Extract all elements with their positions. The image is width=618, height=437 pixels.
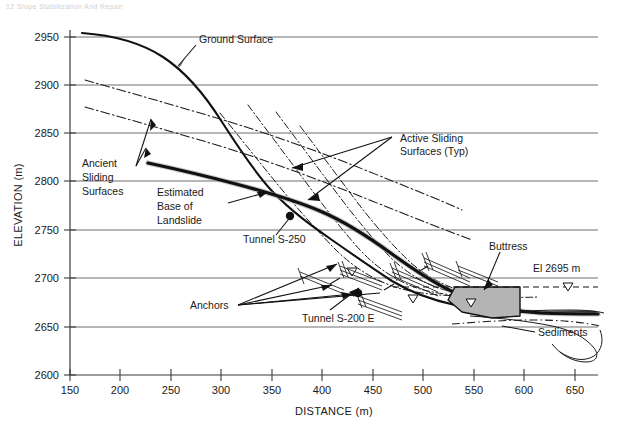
buttress-wedge: [448, 287, 520, 318]
label-active-sliding-line2: Surfaces (Typ): [400, 145, 468, 157]
x-tick-400: 400: [313, 384, 331, 396]
y-tick-2900: 2900: [35, 79, 59, 91]
label-ancient-line3: Surfaces: [82, 185, 123, 197]
x-tick-200: 200: [111, 384, 129, 396]
label-estimated-line3: Landslide: [157, 214, 202, 226]
label-ground-surface: Ground Surface: [199, 33, 273, 45]
cross-section-chart: 2950 2900 2850 2800 2750 2700 2650 2600 …: [0, 0, 618, 437]
label-tunnel-s250: Tunnel S-250: [243, 233, 306, 245]
tunnel-s250-marker: [286, 212, 294, 220]
y-tick-2650: 2650: [35, 321, 59, 333]
estimated-base-of-landslide: [148, 163, 598, 314]
ancient-sliding-surfaces: [85, 80, 472, 240]
figure-root: 12 Slope Stabilization And Repair: [0, 0, 618, 437]
y-tick-2700: 2700: [35, 272, 59, 284]
x-tick-650: 650: [566, 384, 584, 396]
x-tick-550: 550: [465, 384, 483, 396]
y-axis-title: ELEVATION (m): [12, 163, 24, 247]
x-tick-450: 450: [364, 384, 382, 396]
label-ancient-line2: Sliding: [82, 171, 114, 183]
label-sediments: Sediments: [538, 326, 588, 338]
label-anchors: Anchors: [190, 299, 229, 311]
label-active-sliding-line1: Active Sliding: [400, 132, 463, 144]
label-tunnel-s200e: Tunnel S-200 E: [302, 312, 375, 324]
y-tick-2750: 2750: [35, 224, 59, 236]
x-tick-250: 250: [162, 384, 180, 396]
x-tick-300: 300: [212, 384, 230, 396]
x-tick-150: 150: [61, 384, 79, 396]
x-tick-600: 600: [515, 384, 533, 396]
label-buttress: Buttress: [489, 240, 528, 252]
x-axis-title: DISTANCE (m): [295, 405, 373, 417]
y-tick-2600: 2600: [35, 369, 59, 381]
x-axis-ticks: 150 200 250 300 350 400 450 500 550 600 …: [61, 369, 584, 396]
label-estimated-line2: Base of: [157, 200, 193, 212]
y-tick-2850: 2850: [35, 127, 59, 139]
label-ancient-line1: Ancient: [82, 157, 117, 169]
x-tick-350: 350: [263, 384, 281, 396]
y-tick-2950: 2950: [35, 31, 59, 43]
water-table-triangle-icon: [408, 295, 418, 303]
ground-surface-line: [82, 33, 596, 312]
label-elevation-2695: El 2695 m: [533, 262, 581, 274]
label-estimated-line1: Estimated: [157, 186, 204, 198]
grid-lines: [70, 37, 598, 327]
y-tick-2800: 2800: [35, 175, 59, 187]
x-tick-500: 500: [414, 384, 432, 396]
